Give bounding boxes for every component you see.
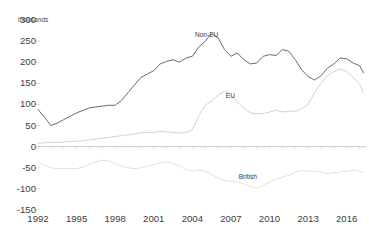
header-text-fragment: · <box>243 0 246 4</box>
cut-off-header-strip: ••·· <box>0 0 369 7</box>
y-axis-tick-labels: 300250200150100500-50-100-150 <box>0 0 36 237</box>
header-text-fragment: • <box>94 0 97 4</box>
y-axis-tick-label: 150 <box>2 79 36 89</box>
y-axis-tick-label: 0 <box>2 142 36 152</box>
y-axis-tick-label: 50 <box>2 121 36 131</box>
series-line-british <box>38 160 363 188</box>
series-label-non-eu: Non-EU <box>195 32 218 39</box>
x-axis-tick-label: 2016 <box>336 214 357 224</box>
x-axis-tick-label: 2004 <box>182 214 203 224</box>
y-axis-tick-label: 200 <box>2 57 36 67</box>
plot-area <box>38 20 366 210</box>
x-axis-tick-label: 2001 <box>143 214 164 224</box>
series-label-eu: EU <box>226 93 235 100</box>
y-axis-tick-label: -100 <box>2 184 36 194</box>
y-axis-tick-label: 250 <box>2 36 36 46</box>
x-axis-tick-label: 1995 <box>66 214 87 224</box>
x-axis-tick-label: 2007 <box>220 214 241 224</box>
y-axis-tick-label: 300 <box>2 15 36 25</box>
x-axis-tick-label: 1992 <box>27 214 48 224</box>
y-axis-tick-label: 100 <box>2 100 36 110</box>
x-axis-tick-label: 2013 <box>297 214 318 224</box>
plot-svg <box>38 20 366 210</box>
header-text-fragment: · <box>186 0 189 4</box>
x-axis-tick-label: 2010 <box>259 214 280 224</box>
migration-line-chart: ••·· thousands 300250200150100500-50-100… <box>0 0 369 237</box>
series-label-british: British <box>239 174 257 181</box>
x-axis-tick-label: 1998 <box>105 214 126 224</box>
y-axis-tick-label: -50 <box>2 163 36 173</box>
